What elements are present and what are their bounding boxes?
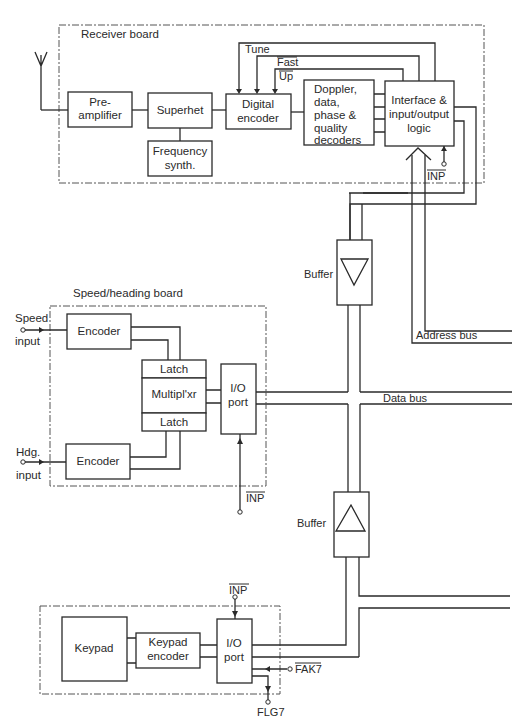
receiver-board-title: Receiver board [81,28,159,40]
latch-bottom-block: Latch [142,413,206,431]
preamplifier-block: Pre- amplifier [68,92,132,127]
block-diagram: Receiver board Pre- amplifier Superhet F… [0,0,526,728]
interface-logic-block: Interface & input/output logic [385,81,454,146]
tune-label: Tune [245,43,270,55]
buffer-top-label: Buffer [304,268,333,280]
svg-text:input: input [15,335,41,347]
digital-encoder-block: Digital encoder [226,94,291,129]
svg-text:Superhet: Superhet [157,104,204,116]
svg-text:synth.: synth. [165,159,196,171]
latch-top-block: Latch [142,360,206,378]
superhet-block: Superhet [148,93,212,128]
svg-text:Keypad: Keypad [74,642,113,654]
keypad-board: Keypad Keypad encoder I/O port INP [40,584,322,718]
svg-text:port: port [228,396,249,408]
svg-text:Multipl'xr: Multipl'xr [151,388,196,400]
svg-text:data,: data, [314,96,340,108]
svg-text:Frequency: Frequency [153,145,208,157]
svg-text:logic: logic [407,122,431,134]
svg-text:Encoder: Encoder [78,325,121,337]
svg-text:INP: INP [246,492,264,504]
svg-text:decoders: decoders [314,134,362,146]
svg-text:encoder: encoder [147,650,189,662]
fak7-signal: FAK7 [252,663,322,675]
svg-text:FAK7: FAK7 [295,663,322,675]
encoder-top-block: Encoder [67,314,131,349]
up-label: Up [279,70,293,82]
buffer-bottom-label: Buffer [297,517,326,529]
svg-text:Digital: Digital [242,98,274,110]
keypad-block: Keypad [62,617,127,681]
vertical-bus [348,305,360,493]
keypad-io-port-block: I/O port [217,619,252,683]
svg-text:Speed: Speed [15,312,48,324]
address-bus: Address bus [406,148,512,343]
svg-text:Doppler,: Doppler, [314,83,357,95]
svg-text:amplifier: amplifier [78,109,122,121]
svg-text:Latch: Latch [160,416,188,428]
svg-text:Encoder: Encoder [77,455,120,467]
svg-text:INP: INP [229,584,247,596]
data-bus-label: Data bus [383,392,428,404]
svg-text:encoder: encoder [237,112,279,124]
lower-bus-lines [287,557,510,657]
speed-io-inp-signal: INP [237,434,265,514]
data-bus: Data bus [256,392,512,404]
svg-text:port: port [224,651,245,663]
speed-input: Speed input [15,312,67,347]
svg-text:Keypad: Keypad [148,636,187,648]
decoders-block: Doppler, data, phase & quality decoders [304,80,374,146]
svg-text:input/output: input/output [389,108,450,120]
multiplexer-block: Multipl'xr [142,378,206,413]
buffer-top: Buffer [304,240,372,305]
svg-text:Latch: Latch [160,363,188,375]
svg-text:INP: INP [427,170,445,182]
fast-label: Fast [277,56,298,68]
keypad-encoder-block: Keypad encoder [136,633,200,668]
speed-io-port-block: I/O port [221,364,256,434]
svg-text:phase &: phase & [314,109,357,121]
svg-text:Hdg.: Hdg. [16,446,40,458]
frequency-synth-block: Frequency synth. [148,141,212,176]
svg-text:Interface &: Interface & [391,94,447,106]
heading-input: Hdg. input [16,446,66,481]
antenna-icon [35,52,68,110]
svg-text:quality: quality [314,122,347,134]
svg-text:I/O: I/O [226,637,241,649]
speed-heading-board: Speed/heading board Speed input Encoder … [15,287,266,514]
svg-text:input: input [16,469,42,481]
receiver-board: Receiver board Pre- amplifier Superhet F… [35,25,484,183]
address-bus-label: Address bus [416,329,478,341]
buffer-bottom: Buffer [297,492,369,557]
keypad-inp-signal: INP [229,584,249,619]
svg-text:FLG7: FLG7 [257,706,285,718]
interface-inp-signal: INP [427,146,447,182]
speed-heading-board-title: Speed/heading board [73,287,183,299]
svg-text:I/O: I/O [230,382,245,394]
encoder-bottom-block: Encoder [66,444,130,479]
svg-text:Pre-: Pre- [89,96,111,108]
